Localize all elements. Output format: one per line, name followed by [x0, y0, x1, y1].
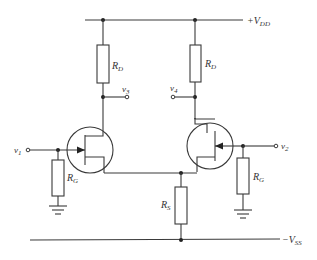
resistor-rd-right: [190, 45, 201, 82]
rg-right-label: RG: [252, 171, 264, 184]
rd-right-label: RD: [204, 58, 216, 71]
jfet-right: [187, 118, 243, 172]
resistor-rg-right: [237, 158, 249, 194]
ground-icon: [49, 206, 67, 214]
rd-left-label: RD: [111, 60, 123, 73]
v4-label: v4: [170, 83, 178, 95]
vss-rail: [30, 239, 280, 240]
v2-terminal: [274, 144, 278, 148]
v1-terminal: [26, 148, 30, 152]
circuit-schematic: +VDD RD v3 RD v4 v1 RG: [0, 0, 317, 260]
v4-terminal: [171, 95, 175, 99]
resistor-rg-left: [52, 160, 64, 196]
v2-label: v2: [281, 141, 289, 153]
vss-label: −VSS: [282, 234, 302, 247]
ground-icon: [234, 210, 252, 218]
vdd-label: +VDD: [247, 15, 270, 28]
jfet-left: [28, 127, 113, 173]
resistor-rd-left: [97, 45, 109, 83]
rg-left-label: RG: [66, 172, 78, 185]
resistor-rs: [175, 187, 187, 224]
gate-arrow-icon: [77, 147, 85, 154]
rs-label: RS: [160, 199, 171, 212]
node-dot: [179, 238, 183, 242]
v1-label: v1: [14, 145, 22, 157]
gate-arrow-icon: [215, 143, 223, 150]
v3-label: v3: [122, 84, 130, 96]
